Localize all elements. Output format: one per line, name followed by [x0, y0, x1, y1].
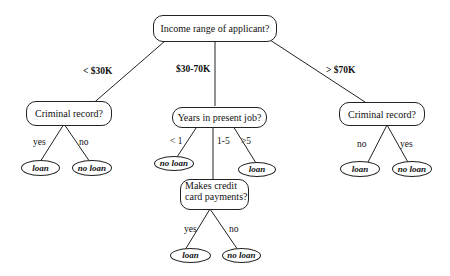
root-node: Income range of applicant?: [153, 15, 277, 42]
credit-leaf-loan: loan: [170, 248, 211, 263]
branch-label-high-income: > $70K: [326, 65, 355, 75]
right-leaf-loan: loan: [340, 161, 380, 177]
credit-card-line2: card payments?: [185, 191, 247, 202]
branch-label-low-income: < $30K: [83, 66, 112, 76]
years-in-job-node: Years in present job?: [172, 107, 267, 128]
middle-edge-more-than-5: >5: [241, 136, 251, 146]
credit-leaf-no-loan: no loan: [222, 248, 261, 263]
right-criminal-record-node: Criminal record?: [339, 102, 425, 126]
credit-card-payments-node: Makes credit card payments?: [180, 179, 249, 210]
left-leaf-loan: loan: [21, 160, 60, 176]
credit-edge-yes: yes: [184, 224, 197, 234]
credit-edge-no: no: [229, 224, 239, 234]
left-edge-yes: yes: [33, 137, 46, 147]
middle-edge-1-5: 1-5: [217, 136, 230, 146]
right-leaf-no-loan: no loan: [392, 161, 432, 177]
left-criminal-record-node: Criminal record?: [26, 101, 112, 126]
middle-leaf-loan: loan: [238, 162, 276, 177]
middle-edge-less-than-1: < 1: [170, 136, 182, 146]
middle-leaf-no-loan: no loan: [154, 156, 194, 171]
branch-label-mid-income: $30-70K: [176, 64, 210, 74]
left-edge-no: no: [79, 137, 89, 147]
right-edge-no: no: [357, 139, 367, 149]
left-leaf-no-loan: no loan: [72, 160, 112, 176]
right-edge-yes: yes: [400, 139, 413, 149]
credit-card-line1: Makes credit: [185, 180, 237, 191]
